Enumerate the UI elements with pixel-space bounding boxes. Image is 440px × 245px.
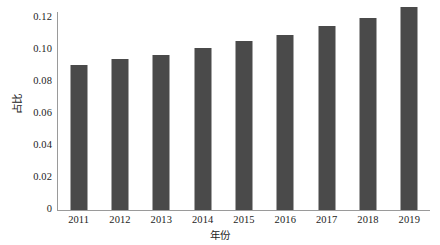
x-axis-tick-label: 2013: [141, 214, 182, 226]
x-axis-tick-label: 2016: [265, 214, 306, 226]
bars-layer: 201120122013201420152016201720182019: [58, 0, 430, 245]
y-axis-title: 占比: [9, 87, 24, 121]
x-axis-tick-label: 2012: [99, 214, 140, 226]
x-axis-tick-label: 2011: [58, 214, 99, 226]
y-axis-tick-label: 0.08: [6, 76, 52, 86]
y-axis-tick-label: 0.04: [6, 140, 52, 150]
bar[interactable]: [194, 48, 211, 210]
y-axis-tick-label: 0.12: [6, 12, 52, 22]
bar[interactable]: [277, 35, 294, 210]
bar[interactable]: [111, 59, 128, 210]
x-axis-tick-label: 2015: [223, 214, 264, 226]
bar[interactable]: [359, 18, 376, 210]
x-axis-tick-label: 2017: [306, 214, 347, 226]
y-axis-tick-labels: 0.12 0.10 0.08 0.06 0.04 0.02 0: [0, 0, 52, 245]
bar[interactable]: [401, 7, 418, 210]
x-axis-tick-label: 2018: [347, 214, 388, 226]
bar[interactable]: [235, 41, 252, 210]
x-axis-title: 年份: [0, 227, 440, 242]
bar[interactable]: [318, 26, 335, 210]
bar[interactable]: [153, 55, 170, 210]
y-axis-tick-label: 0: [6, 204, 52, 214]
x-axis-tick-label: 2019: [389, 214, 430, 226]
y-axis-tick-label: 0.02: [6, 172, 52, 182]
bar[interactable]: [70, 65, 87, 211]
x-axis-tick-label: 2014: [182, 214, 223, 226]
bar-chart: 0.12 0.10 0.08 0.06 0.04 0.02 0 占比 20112…: [0, 0, 440, 245]
y-axis-tick-label: 0.10: [6, 44, 52, 54]
